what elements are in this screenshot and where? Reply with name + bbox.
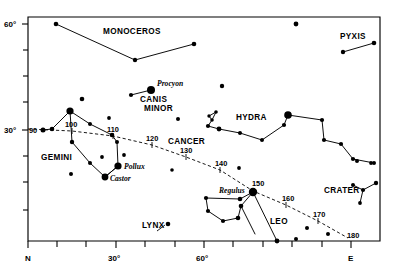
- star-point: [238, 197, 243, 202]
- ecliptic-label-160: 160: [282, 194, 294, 203]
- star-point: [207, 114, 210, 117]
- star-point: [107, 116, 111, 120]
- star-point-pollux: [114, 162, 121, 169]
- star-point: [166, 222, 171, 227]
- star-point: [69, 172, 73, 176]
- star-point: [129, 93, 133, 97]
- ecliptic-label-170: 170: [313, 210, 325, 219]
- star-point: [361, 188, 365, 192]
- label-cancer: CANCER: [168, 137, 205, 146]
- plot-border: [28, 17, 380, 241]
- label-pyxis: PYXIS: [340, 32, 366, 41]
- star-point: [204, 196, 208, 200]
- star-point: [369, 161, 373, 165]
- star-point: [115, 140, 119, 144]
- star-point: [239, 204, 244, 209]
- constellation-lines: [43, 24, 376, 241]
- star-point: [41, 128, 46, 133]
- label-star-procyon: Procyon: [157, 79, 183, 88]
- ecliptic-label-110: 110: [107, 125, 119, 134]
- star-point: [70, 140, 74, 144]
- star-point-regulus: [249, 188, 257, 196]
- pyxis-lines: [343, 43, 374, 52]
- ecliptic-label-140: 140: [215, 159, 227, 168]
- star-point: [326, 232, 330, 236]
- chart-frame: [28, 17, 380, 241]
- ecliptic-label-130: 130: [180, 146, 192, 155]
- ecliptic-label-100: 100: [65, 120, 77, 129]
- label-monoceros: MONOCEROS: [103, 27, 161, 36]
- star-point: [54, 22, 59, 27]
- x-axis-label-N: N: [25, 254, 31, 263]
- star-point: [220, 84, 224, 88]
- leo-lines-tail-2: [241, 206, 255, 234]
- star-point: [206, 124, 210, 128]
- star-point: [133, 58, 137, 62]
- star-point: [236, 216, 241, 221]
- label-leo: LEO: [270, 217, 288, 226]
- label-canis-minor-line2: MINOR: [144, 104, 173, 113]
- label-star-pollux: Pollux: [124, 162, 145, 171]
- star-point: [260, 138, 264, 142]
- star-point: [122, 153, 126, 157]
- label-crater: CRATER: [324, 186, 360, 195]
- label-gemini: GEMINI: [41, 153, 72, 162]
- star-point: [374, 181, 378, 185]
- crater-lines-rim: [363, 183, 376, 190]
- x-axis-label-E: E: [348, 254, 354, 263]
- star-point: [294, 237, 298, 241]
- star-point: [88, 161, 92, 165]
- hydra-body-lines-2: [284, 115, 374, 163]
- ecliptic-label-180: 180: [347, 231, 359, 240]
- star-point: [351, 157, 355, 161]
- star-point: [50, 127, 55, 132]
- star-point: [282, 123, 286, 127]
- star-point: [358, 201, 362, 205]
- x-axis-ticks: [28, 241, 351, 248]
- y-axis-label-30: 30°: [4, 126, 16, 135]
- star-point: [305, 226, 309, 230]
- star-point-castor: [102, 174, 109, 181]
- label-hydra: HYDRA: [236, 113, 267, 122]
- star-point: [217, 127, 222, 132]
- star-point: [238, 131, 242, 135]
- label-star-regulus: Regulus: [218, 186, 245, 195]
- x-axis-label-60: 60°: [196, 254, 208, 263]
- y-axis-ticks: [22, 24, 28, 210]
- ecliptic-label-120: 120: [146, 134, 158, 143]
- label-canis-minor-line1: CANIS: [140, 95, 167, 104]
- star-point: [320, 118, 324, 122]
- ecliptic-label-150: 150: [252, 179, 264, 188]
- star-chart: 60° 30° N 30° 60° E: [0, 0, 396, 275]
- star-point: [322, 138, 326, 142]
- star-point: [214, 110, 218, 114]
- star-point: [80, 97, 85, 102]
- star-point: [170, 168, 174, 172]
- star-point: [206, 209, 210, 213]
- star-point: [237, 166, 241, 170]
- sky-map-svg: 60° 30° N 30° 60° E: [0, 0, 396, 275]
- y-axis-label-60: 60°: [4, 20, 16, 29]
- star-point: [339, 142, 343, 146]
- ecliptic-label-90: 90: [29, 126, 37, 135]
- star-point: [192, 42, 197, 47]
- star-point: [100, 155, 104, 159]
- star-point: [176, 117, 180, 121]
- star-point: [355, 159, 359, 163]
- label-lynx: LYNX: [142, 221, 165, 230]
- star-point: [294, 22, 299, 27]
- x-axis-label-30: 30°: [108, 254, 120, 263]
- label-star-castor: Castor: [110, 174, 132, 183]
- star-point: [341, 50, 345, 54]
- star-point-alphard: [284, 111, 292, 119]
- star-point: [221, 219, 225, 223]
- star-point: [275, 239, 280, 244]
- gemini-lines-upper: [43, 111, 112, 135]
- star-point: [66, 107, 73, 114]
- star-point: [210, 118, 214, 122]
- star-point: [372, 41, 377, 46]
- star-point-procyon: [147, 86, 155, 94]
- star-point: [88, 122, 92, 126]
- star-field: [41, 22, 379, 244]
